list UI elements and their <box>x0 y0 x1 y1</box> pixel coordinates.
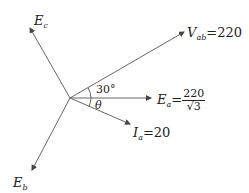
eb-label: Eb <box>13 176 28 192</box>
angle-30-label: 30° <box>96 84 116 95</box>
ia-label: Ia=20 <box>133 126 170 142</box>
angle-theta-label: θ <box>95 100 102 111</box>
angle-arc-30 <box>88 88 91 98</box>
ec-phasor <box>30 28 70 98</box>
angle-arc-theta <box>89 98 91 107</box>
ea-fraction: 220√3 <box>182 88 205 112</box>
ec-label: Ec <box>34 14 48 30</box>
vab-label: Vab=220 <box>187 26 242 42</box>
ea-label: Ea=220√3 <box>157 88 205 112</box>
eb-phasor <box>32 98 70 170</box>
